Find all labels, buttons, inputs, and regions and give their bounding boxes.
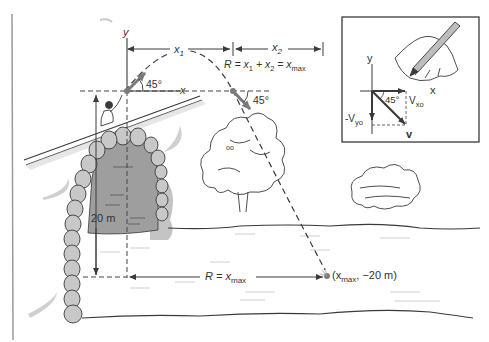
level-velocity-arrow [233, 91, 250, 109]
height-label: 20 m [91, 212, 115, 224]
velocity-inset: y x 45° Vxo -Vyo v [342, 17, 479, 142]
inset-y-label: y [367, 52, 373, 64]
launch-velocity-arrow [127, 73, 145, 91]
inset-angle-label: 45° [385, 94, 400, 105]
y-axis-label: y [122, 26, 130, 38]
projectile-diagram: oo y x x1 x2 R = x1 + x2 = xmax 45° 45° … [0, 0, 489, 342]
inset-v-label: v [406, 128, 413, 140]
landing-point-label: (xmax, −20 m) [332, 269, 397, 284]
level-angle-label: 45° [253, 94, 269, 106]
level-point [230, 88, 236, 94]
grass-marks [100, 234, 440, 301]
inset-x-label: x [430, 84, 436, 96]
launch-point [124, 88, 130, 94]
launch-angle-label: 45° [146, 78, 162, 90]
ground-lines [82, 224, 480, 318]
tree-face: oo [226, 144, 234, 151]
left-border [12, 14, 13, 340]
range-equation: R = x1 + x2 = xmax [224, 58, 306, 73]
person-figure [101, 95, 122, 126]
x-axis-label: x [179, 84, 186, 96]
